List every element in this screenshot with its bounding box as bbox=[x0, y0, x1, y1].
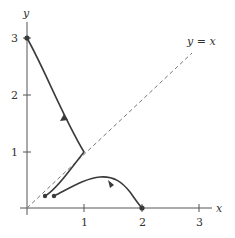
arrow-up-icon bbox=[60, 114, 68, 121]
y-axis-label: y bbox=[22, 7, 30, 20]
x-tick-label-3: 3 bbox=[196, 216, 203, 229]
y-tick-label-1: 1 bbox=[11, 146, 18, 159]
x-axis-label: x bbox=[216, 202, 223, 215]
y-tick-label-2: 2 bbox=[11, 89, 18, 102]
trajectory-1-end-dot bbox=[43, 194, 47, 198]
y-tick-label-3: 3 bbox=[11, 32, 18, 45]
trajectory-1-start-dot bbox=[24, 35, 29, 40]
arrow-down-right-icon bbox=[108, 180, 114, 188]
trajectory-to-2-0 bbox=[54, 177, 142, 208]
trajectory-2-start-dot bbox=[52, 194, 56, 198]
x-tick-label-1: 1 bbox=[81, 216, 88, 229]
trajectory-from-0-3 bbox=[27, 38, 84, 196]
phase-diagram: x y 1 2 3 1 2 3 y = x bbox=[0, 0, 235, 238]
y-equals-x-label: y = x bbox=[186, 35, 216, 48]
trajectory-2-end-dot bbox=[139, 205, 144, 210]
x-tick-label-2: 2 bbox=[139, 216, 146, 229]
